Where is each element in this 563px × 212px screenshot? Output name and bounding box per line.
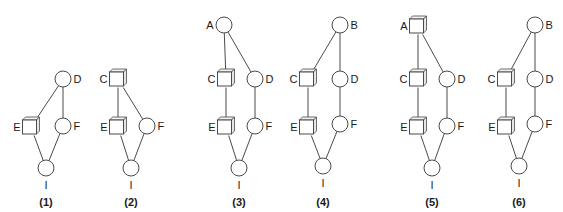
node-I-circle-icon: I: [38, 160, 54, 191]
edge-F-I: [435, 134, 445, 161]
edge-F-I: [134, 133, 144, 160]
node-C-cube-icon: C: [290, 69, 317, 86]
node-label-I: I: [44, 179, 47, 191]
diagram-1: DEFI(1): [13, 71, 81, 208]
edge-A-D: [423, 35, 444, 72]
node-label-I: I: [321, 177, 324, 189]
node-F-circle-icon: F: [439, 118, 465, 134]
edge-F-I: [522, 131, 532, 158]
lattice-diagrams-figure: DEFI(1)CEFI(2)ACDEFI(3)BCDEFI(4)ACDEFI(5…: [0, 0, 563, 212]
edge-F-I: [326, 131, 337, 158]
diagram-2: CEFI(2): [100, 69, 165, 208]
node-label-I: I: [430, 179, 433, 191]
edge-C-F: [123, 88, 143, 120]
diagram-caption: (3): [232, 196, 246, 208]
node-F-circle-icon: F: [247, 118, 273, 134]
node-label-B: B: [546, 19, 553, 31]
node-label-C: C: [100, 73, 108, 85]
node-label-E: E: [13, 121, 20, 133]
node-A-circle-icon: A: [206, 17, 232, 33]
node-label-I: I: [129, 179, 132, 191]
node-label-C: C: [290, 73, 298, 85]
node-F-circle-icon: F: [139, 118, 165, 134]
node-label-D: D: [546, 73, 554, 85]
node-label-E: E: [400, 121, 407, 133]
node-E-cube-icon: E: [100, 117, 126, 134]
node-label-C: C: [208, 73, 216, 85]
edge-B-C: [313, 32, 336, 71]
node-B-circle-icon: B: [332, 17, 358, 33]
edge-E-I: [311, 136, 320, 159]
node-label-F: F: [546, 118, 553, 130]
node-label-C: C: [488, 73, 496, 85]
diagram-caption: (1): [39, 196, 53, 208]
node-I-circle-icon: I: [424, 160, 440, 191]
node-I-circle-icon: I: [315, 158, 331, 189]
node-label-B: B: [351, 19, 358, 31]
edge-F-I: [242, 133, 252, 160]
diagram-caption: (2): [124, 196, 138, 208]
edge-E-I: [509, 136, 517, 159]
edge-F-I: [49, 133, 60, 160]
node-label-F: F: [74, 120, 81, 132]
diagram-caption: (5): [425, 196, 439, 208]
node-E-cube-icon: E: [400, 117, 426, 134]
node-F-circle-icon: F: [527, 116, 553, 132]
node-C-cube-icon: C: [208, 69, 235, 86]
edge-E-I: [229, 136, 237, 161]
node-B-circle-icon: B: [527, 17, 553, 33]
diagram-6: BCDEFI(6): [488, 17, 554, 208]
node-E-cube-icon: E: [208, 117, 234, 134]
node-E-cube-icon: E: [290, 117, 316, 134]
node-label-F: F: [458, 120, 465, 132]
diagram-5: ACDEFI(5): [400, 16, 466, 208]
edge-B-C: [511, 32, 532, 70]
node-label-A: A: [400, 20, 408, 32]
diagram-4: BCDEFI(4): [290, 17, 359, 208]
node-C-cube-icon: C: [400, 69, 427, 86]
node-C-cube-icon: C: [488, 69, 515, 86]
edge-E-I: [34, 136, 43, 161]
node-label-F: F: [266, 120, 273, 132]
diagram-caption: (4): [316, 196, 330, 208]
edge-E-I: [421, 136, 430, 161]
node-label-E: E: [488, 121, 495, 133]
node-E-cube-icon: E: [13, 117, 39, 134]
node-F-circle-icon: F: [332, 116, 358, 132]
node-label-E: E: [100, 121, 107, 133]
node-D-circle-icon: D: [527, 71, 554, 87]
node-label-I: I: [517, 177, 520, 189]
node-label-I: I: [237, 179, 240, 191]
diagram-3: ACDEFI(3): [206, 17, 273, 208]
edge-A-C: [224, 33, 225, 71]
node-label-F: F: [351, 118, 358, 130]
node-label-E: E: [208, 121, 215, 133]
node-label-D: D: [74, 73, 82, 85]
node-D-circle-icon: D: [332, 71, 359, 87]
node-I-circle-icon: I: [123, 160, 139, 191]
edge-A-D: [228, 32, 251, 72]
edge-E-I: [121, 136, 129, 161]
node-D-circle-icon: D: [439, 71, 466, 87]
node-D-circle-icon: D: [247, 71, 274, 87]
node-E-cube-icon: E: [488, 117, 514, 134]
node-label-D: D: [266, 73, 274, 85]
edge-D-E: [37, 86, 59, 119]
diagram-caption: (6): [512, 196, 526, 208]
node-A-cube-icon: A: [400, 16, 426, 33]
node-label-D: D: [351, 73, 359, 85]
node-C-cube-icon: C: [100, 69, 127, 86]
node-label-D: D: [458, 73, 466, 85]
node-label-A: A: [206, 19, 214, 31]
node-F-circle-icon: F: [55, 118, 81, 134]
node-label-E: E: [290, 121, 297, 133]
node-label-F: F: [158, 120, 165, 132]
node-D-circle-icon: D: [55, 71, 82, 87]
node-I-circle-icon: I: [231, 160, 247, 191]
node-I-circle-icon: I: [511, 158, 527, 189]
node-label-C: C: [400, 73, 408, 85]
